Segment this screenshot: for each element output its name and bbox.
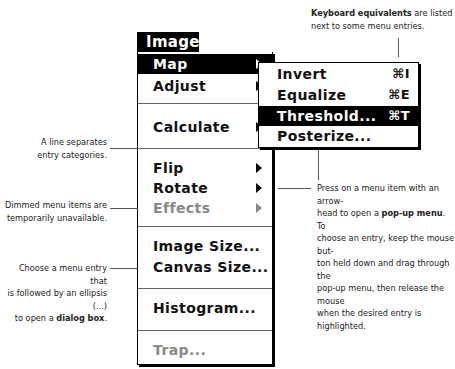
menu-item-image-size[interactable]: Image Size... [138, 236, 272, 256]
submenu-item-label: Threshold... [277, 108, 376, 124]
shortcut-label: ⌘E [388, 85, 410, 105]
leader-line [110, 148, 138, 149]
annotation-text: to open a [15, 313, 56, 323]
annotation-text: pop-up menu, then release the mouse [317, 282, 455, 307]
leader-line [110, 268, 138, 269]
menu-item-label: Flip [153, 160, 184, 176]
submenu-item-invert[interactable]: Invert ⌘I [259, 64, 418, 84]
menu-item-label: Histogram... [153, 300, 256, 316]
annotation-bold: dialog box [56, 313, 104, 323]
menu-separator [138, 288, 272, 289]
menu-item-label: Rotate [153, 180, 208, 196]
leader-line [398, 38, 399, 57]
leader-line [278, 188, 311, 189]
menu-item-canvas-size[interactable]: Canvas Size... [138, 257, 272, 277]
annotation-text: ton held down and drag through the [317, 257, 455, 282]
menu-separator [138, 148, 272, 149]
annotation-text: choose an entry, keep the mouse but- [317, 232, 455, 257]
shortcut-label: ⌘I [392, 64, 410, 84]
submenu-arrow-icon [256, 203, 262, 213]
submenu-arrow-icon [256, 183, 262, 193]
annotation-ellipsis: Choose a menu entry that is followed by … [0, 262, 107, 325]
annotation-bold: pop-up menu [382, 208, 443, 218]
annotation-text: Press on a menu item with an arrow- [317, 182, 455, 207]
annotation-separator: A line separates entry categories. [0, 136, 107, 161]
menu-item-calculate[interactable]: Calculate [138, 117, 272, 137]
submenu-item-equalize[interactable]: Equalize ⌘E [259, 85, 418, 105]
menu-separator [138, 226, 272, 227]
menu-item-label: Adjust [153, 78, 206, 94]
shortcut-label: ⌘T [388, 106, 410, 126]
leader-line [110, 208, 138, 209]
menu-item-label: Calculate [153, 119, 230, 135]
menu-item-label: Image Size... [153, 238, 260, 254]
menu-item-label: Effects [153, 200, 210, 216]
map-submenu: Invert ⌘I Equalize ⌘E Threshold... ⌘T Po… [258, 62, 419, 148]
annotation-keyboard-equivalents: Keyboard equivalents are listed next to … [311, 7, 455, 32]
submenu-item-label: Equalize [277, 87, 346, 103]
menu-item-label: Canvas Size... [153, 259, 269, 275]
menu-item-rotate[interactable]: Rotate [138, 178, 272, 198]
menu-item-histogram[interactable]: Histogram... [138, 298, 272, 318]
annotation-text: Choose a menu entry that [0, 262, 107, 287]
annotation-text: when the desired entry is highlighted. [317, 307, 455, 332]
annotation-text: entry categories. [0, 149, 107, 162]
menu-item-map[interactable]: Map [138, 54, 272, 74]
annotation-text: are listed [412, 8, 453, 18]
annotation-text: next to some menu entries. [311, 20, 455, 33]
menu-item-effects: Effects [138, 198, 272, 218]
menu-item-flip[interactable]: Flip [138, 158, 272, 178]
annotation-text: head to open a [317, 208, 382, 218]
annotation-text: is followed by an ellipsis (...) [0, 287, 107, 312]
leader-line [318, 150, 319, 180]
submenu-item-threshold[interactable]: Threshold... ⌘T [259, 106, 418, 126]
submenu-item-label: Invert [277, 66, 327, 82]
annotation-text: A line separates [0, 136, 107, 149]
menu-separator [138, 330, 272, 331]
menu-separator [138, 103, 272, 104]
menu-item-label: Map [153, 56, 188, 72]
annotation-text: . [104, 313, 107, 323]
annotation-bold: Keyboard equivalents [311, 8, 412, 18]
annotation-popup-menu: Press on a menu item with an arrow- head… [317, 182, 455, 332]
submenu-item-label: Posterize... [277, 128, 372, 144]
menu-item-adjust[interactable]: Adjust [138, 76, 272, 96]
menu-item-label: Trap... [153, 342, 206, 358]
menu-title-image[interactable]: Image [137, 32, 199, 52]
image-menu: Map Adjust Calculate Flip Rotate Effects… [137, 52, 273, 365]
annotation-text: Dimmed menu items are [0, 199, 107, 212]
menu-item-trap: Trap... [138, 340, 272, 360]
submenu-arrow-icon [256, 163, 262, 173]
annotation-dimmed: Dimmed menu items are temporarily unavai… [0, 199, 107, 224]
submenu-item-posterize[interactable]: Posterize... [259, 126, 418, 146]
annotation-text: temporarily unavailable. [0, 212, 107, 225]
